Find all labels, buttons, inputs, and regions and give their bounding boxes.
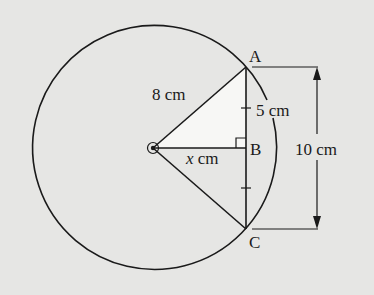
point-label-a: A	[249, 47, 262, 66]
point-label-b: B	[250, 140, 261, 159]
point-label-c: C	[249, 233, 260, 252]
geometry-figure: A B C 8 cm 5 cm 10 cm x cm	[0, 0, 374, 295]
chord-length-label: 10 cm	[295, 140, 337, 159]
radius-label: 8 cm	[152, 85, 186, 104]
distance-unit: cm	[194, 149, 219, 168]
distance-label: x cm	[185, 149, 219, 168]
arrowhead-down-icon	[313, 216, 321, 229]
arrowhead-up-icon	[313, 67, 321, 80]
diagram-canvas: A B C 8 cm 5 cm 10 cm x cm	[0, 0, 374, 295]
half-chord-label: 5 cm	[256, 101, 290, 120]
center-dot	[151, 146, 155, 150]
